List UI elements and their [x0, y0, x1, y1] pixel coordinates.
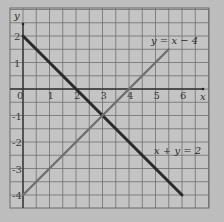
x-axis-arrow-icon [202, 88, 205, 91]
y-axis-arrow-icon [22, 23, 25, 26]
chart: 012345621-1-2-3-4xy y = x − 4x + y = 2 [0, 0, 224, 222]
y-tick-label: -1 [12, 111, 22, 122]
x-tick-label: 3 [101, 90, 107, 101]
y-axis-label: y [13, 10, 20, 21]
x-tick-label: 0 [17, 90, 23, 101]
x-tick-label: 1 [48, 90, 54, 101]
y-tick-label: 1 [14, 58, 20, 69]
equation-label-x-plus-y-eq-2: x + y = 2 [154, 145, 201, 156]
y-tick-label: 2 [14, 31, 20, 42]
y-tick-label: -3 [12, 164, 22, 175]
x-tick-label: 5 [154, 90, 160, 101]
x-axis-label: x [200, 91, 206, 102]
y-tick-label: -4 [12, 190, 22, 201]
x-tick-label: 6 [180, 90, 186, 101]
equation-label-y-eq-x-minus-4: y = x − 4 [150, 35, 198, 46]
y-tick-label: -2 [12, 137, 22, 148]
